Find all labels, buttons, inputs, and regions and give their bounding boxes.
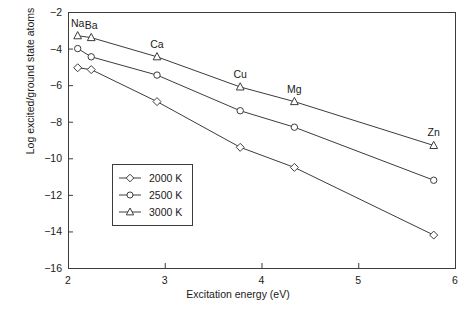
marker-circle [88,54,94,60]
x-tick-label: 6 [440,274,470,286]
marker-circle [291,124,297,130]
marker-diamond [87,66,95,74]
marker-circle [127,192,133,198]
y-tick-label: −12 [32,189,62,201]
y-tick-label: −6 [32,79,62,91]
data-point-label: Ba [85,19,98,31]
plot-canvas [0,0,476,310]
x-tick-label: 4 [247,274,277,286]
marker-circle [154,72,160,78]
plot-frame [69,13,456,269]
data-point-label: Cu [233,68,246,80]
series-line [78,49,434,181]
y-tick-label: −10 [32,152,62,164]
marker-diamond [153,98,161,106]
marker-circle [237,108,243,114]
x-axis-label: Excitation energy (eV) [0,288,476,300]
marker-diamond [430,231,438,239]
legend-label: 2500 K [149,189,182,201]
marker-triangle [74,32,82,39]
y-tick-label: −4 [32,43,62,55]
legend-label: 3000 K [149,206,182,218]
y-tick-label: −14 [32,225,62,237]
series-line [78,36,434,146]
marker-diamond [290,163,298,171]
chart-figure: Log excited/ground state atoms Excitatio… [0,0,476,310]
data-point-label: Ca [150,38,163,50]
data-point-label: Mg [287,83,302,95]
marker-circle [74,45,80,51]
marker-diamond [74,64,82,72]
x-tick-label: 5 [343,274,373,286]
x-tick-label: 2 [53,274,83,286]
y-tick-label: −16 [32,262,62,274]
y-tick-label: −2 [32,6,62,18]
marker-diamond [236,143,244,151]
y-tick-label: −8 [32,116,62,128]
data-point-label: Zn [428,126,440,138]
x-tick-label: 3 [150,274,180,286]
legend-label: 2000 K [149,172,182,184]
data-point-label: Na [71,17,84,29]
marker-circle [431,177,437,183]
